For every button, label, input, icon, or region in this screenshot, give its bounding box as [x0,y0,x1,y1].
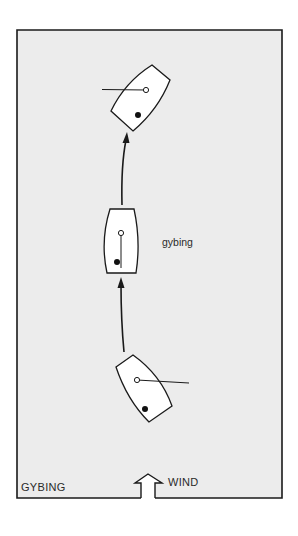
diagram-title: GYBING [21,481,66,493]
crew-icon [142,406,148,412]
crew-icon [135,112,141,118]
crew-icon [114,259,120,265]
boat-middle [104,209,138,273]
gybing-diagram: gybing WIND GYBING [0,0,298,536]
mast-icon [118,230,123,235]
mast-icon [143,87,148,92]
maneuver-label: gybing [162,236,193,248]
mast-icon [134,377,139,382]
boom [102,90,146,91]
wind-label: WIND [168,476,199,488]
